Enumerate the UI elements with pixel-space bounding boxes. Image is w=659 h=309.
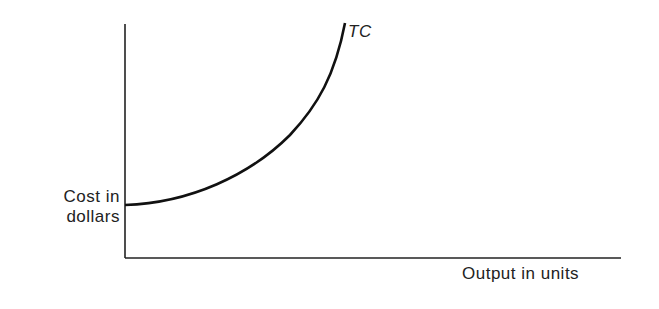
x-axis-label: Output in units — [462, 264, 579, 284]
chart-canvas — [0, 0, 659, 309]
y-axis-label-line1: Cost in — [36, 187, 120, 207]
y-axis-label: Cost in dollars — [36, 187, 120, 227]
curve-label-tc: TC — [348, 22, 372, 42]
y-axis-label-line2: dollars — [36, 207, 120, 227]
tc-curve — [125, 23, 345, 205]
